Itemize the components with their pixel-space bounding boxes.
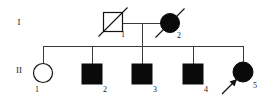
generation-label-ii: II xyxy=(16,65,22,75)
individual-number-i-1: 1 xyxy=(121,30,125,39)
individual-symbol-ii-4 xyxy=(183,64,203,84)
individual-number-ii-1: 1 xyxy=(35,85,39,94)
individual-symbol-ii-1 xyxy=(34,64,53,83)
individual-symbol-ii-2 xyxy=(82,64,102,84)
individual-number-ii-3: 3 xyxy=(153,85,157,94)
open-circle-female xyxy=(34,64,53,83)
pedigree-connectors xyxy=(43,23,243,64)
individual-number-i-2: 2 xyxy=(177,31,181,40)
filled-circle-female xyxy=(233,62,253,82)
individual-symbol-ii-5 xyxy=(222,62,253,94)
filled-square-male xyxy=(183,64,203,84)
individual-number-ii-5: 5 xyxy=(253,81,257,90)
individual-symbol-ii-3 xyxy=(132,64,152,84)
pedigree-diagram: I II 1 2 1 2 3 4 5 xyxy=(0,0,280,103)
generation-label-i: I xyxy=(18,17,21,27)
filled-square-male xyxy=(132,64,152,84)
filled-square-male xyxy=(82,64,102,84)
individual-number-ii-4: 4 xyxy=(204,85,208,94)
pedigree-chart: I II 1 2 1 2 3 4 5 xyxy=(0,0,280,103)
individual-number-ii-2: 2 xyxy=(103,85,107,94)
individual-symbols xyxy=(34,8,254,95)
